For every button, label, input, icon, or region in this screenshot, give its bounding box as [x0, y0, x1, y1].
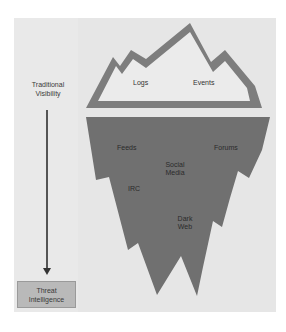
- visibility-label-line1: Traditional: [20, 80, 76, 89]
- iceberg-submerged: [86, 117, 270, 296]
- tip-label-logs: Logs: [133, 79, 148, 87]
- submerged-label-irc: IRC: [128, 185, 140, 193]
- social-media-line2: Media: [163, 169, 187, 177]
- threat-intelligence-box: Threat Intelligence: [17, 281, 76, 308]
- dark-web-line2: Web: [176, 223, 194, 231]
- down-arrow-shaft: [46, 110, 48, 270]
- visibility-label-line2: Visibility: [20, 89, 76, 98]
- social-media-line1: Social: [163, 161, 187, 169]
- threat-intelligence-line2: Intelligence: [18, 295, 75, 304]
- threat-intelligence-line1: Threat: [18, 286, 75, 295]
- dark-web-line1: Dark: [176, 215, 194, 223]
- submerged-label-dark-web: Dark Web: [176, 215, 194, 231]
- tip-label-events: Events: [193, 79, 214, 87]
- waterline: [84, 110, 274, 116]
- submerged-label-social-media: Social Media: [163, 161, 187, 177]
- traditional-visibility-label: Traditional Visibility: [20, 80, 76, 98]
- submerged-label-feeds: Feeds: [117, 144, 136, 152]
- down-arrow-icon: [43, 268, 51, 275]
- submerged-label-forums: Forums: [214, 144, 238, 152]
